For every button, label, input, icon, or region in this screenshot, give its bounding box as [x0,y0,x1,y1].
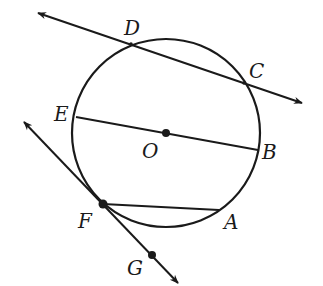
point-O [162,129,170,137]
chord-FA [103,204,219,210]
label-O: O [142,141,158,161]
label-F: F [78,211,92,231]
label-D: D [124,18,140,38]
point-F [99,200,108,209]
label-A: A [224,212,238,232]
point-G [148,251,156,259]
secant-line-DC [38,13,302,103]
label-B: B [262,142,277,162]
point-D [129,42,133,46]
label-C: C [249,61,264,81]
point-C [242,81,246,85]
geometry-diagram: D C E O B F A G [0,0,323,286]
label-G: G [127,258,143,278]
label-E: E [54,104,69,124]
